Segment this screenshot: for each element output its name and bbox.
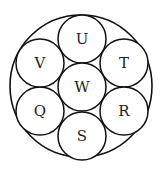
circle-diagram: U T R S Q V W xyxy=(0,0,162,170)
circle-t: T xyxy=(100,39,148,87)
circle-r: R xyxy=(100,87,148,135)
label-q: Q xyxy=(34,102,46,120)
label-r: R xyxy=(118,102,130,120)
label-u: U xyxy=(76,30,89,48)
circle-s: S xyxy=(58,112,106,160)
label-t: T xyxy=(119,54,129,72)
label-s: S xyxy=(77,127,87,145)
label-w: W xyxy=(74,78,90,96)
circle-w: W xyxy=(58,63,106,111)
circle-v: V xyxy=(16,39,64,87)
circle-q: Q xyxy=(16,87,64,135)
circle-u: U xyxy=(58,15,106,63)
label-v: V xyxy=(34,54,47,72)
